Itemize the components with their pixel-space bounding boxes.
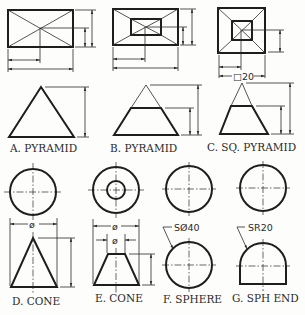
e-front-view: ø ø (93, 219, 155, 294)
dimensioning-diagram: A. PYRAMID (0, 0, 305, 315)
c-dimension-square-20: □20 (233, 71, 254, 82)
a-dimensions (8, 10, 96, 72)
figure-label-c: C. SQ. PYRAMID (207, 141, 296, 153)
g-front-view: SR20 (236, 222, 290, 291)
g-dimension-sphere-radius: SR20 (248, 222, 273, 233)
f-dimension-sphere-diameter: SØ40 (174, 222, 200, 233)
e-top-view (88, 162, 144, 218)
c-top-view (218, 8, 265, 53)
figure-c-square-pyramid: □20 C. SQ. PYRAMID (207, 8, 296, 153)
figure-g-spherical-end: SR20 G. SPH END (232, 161, 299, 304)
figure-a-pyramid: A. PYRAMID (8, 10, 96, 154)
figure-f-sphere: SØ40 F. SPHERE (162, 162, 222, 305)
g-top-view (236, 161, 290, 215)
c-front-view (220, 83, 294, 134)
figure-label-f: F. SPHERE (163, 293, 222, 305)
figure-e-truncated-cone: ø ø E. CONE (88, 162, 155, 304)
figure-label-g: G. SPH END (232, 292, 299, 304)
e-dimension-outer-diameter: ø (112, 221, 118, 232)
figure-b-pyramid: B. PYRAMID (110, 9, 202, 154)
figure-label-e: E. CONE (95, 292, 143, 304)
figure-label-b: B. PYRAMID (110, 142, 177, 154)
figure-d-cone: ø D. CONE (4, 163, 75, 307)
f-front-view: SØ40 (162, 222, 216, 292)
d-front-view: ø (10, 218, 75, 294)
e-dimension-inner-diameter: ø (112, 235, 118, 246)
figure-label-a: A. PYRAMID (9, 142, 77, 154)
a-top-view (8, 10, 73, 47)
a-front-view (9, 87, 89, 137)
f-top-view (162, 162, 216, 216)
b-front-view (114, 85, 202, 135)
d-dimension-diameter: ø (29, 219, 35, 230)
figure-label-d: D. CONE (12, 295, 60, 307)
d-top-view (4, 163, 62, 221)
